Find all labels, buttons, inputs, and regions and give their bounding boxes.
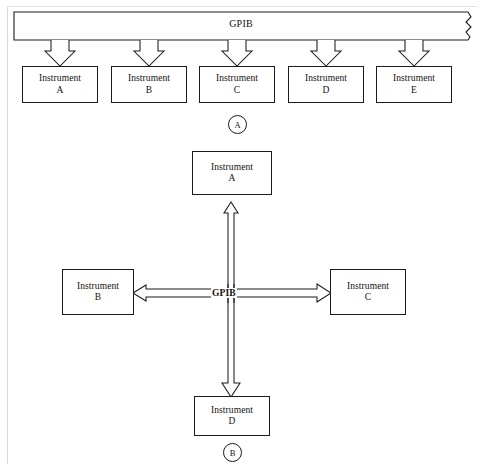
instrument-label-line2: C xyxy=(234,85,240,96)
figure-tag-b: B xyxy=(223,443,242,462)
figure-tag-a-label: A xyxy=(234,120,240,130)
instrument-label-line2: B xyxy=(95,292,101,303)
bus-drop-arrow-a xyxy=(45,40,75,66)
instrument-box-b-left: Instrument B xyxy=(62,269,134,315)
instrument-box-b-right: Instrument C xyxy=(330,269,406,315)
gpib-bus-label-a: GPIB xyxy=(0,18,482,29)
figure-tag-b-label: B xyxy=(230,448,236,458)
figure-page: GPIB Instrument A Instrument B Instrumen… xyxy=(0,0,491,473)
instrument-label-line1: Instrument xyxy=(216,73,258,84)
instrument-label-line2: B xyxy=(146,85,152,96)
instrument-label-line1: Instrument xyxy=(305,73,347,84)
gpib-bus-label-b: GPIB xyxy=(211,288,237,298)
instrument-label-line1: Instrument xyxy=(393,73,435,84)
gpib-arrow-vertical xyxy=(222,202,240,397)
instrument-label-line1: Instrument xyxy=(77,281,119,292)
instrument-label-line2: A xyxy=(229,173,236,184)
instrument-label-line2: A xyxy=(57,85,64,96)
instrument-label-line2: C xyxy=(365,292,371,303)
instrument-box-b-bottom: Instrument D xyxy=(194,396,270,436)
instrument-label-line2: D xyxy=(323,85,330,96)
instrument-label-line1: Instrument xyxy=(128,73,170,84)
instrument-label-line2: E xyxy=(411,85,417,96)
instrument-label-line1: Instrument xyxy=(211,405,253,416)
instrument-box-b-top: Instrument A xyxy=(192,151,272,195)
instrument-box-a5: Instrument E xyxy=(376,66,452,103)
bus-drop-arrow-e xyxy=(399,40,429,66)
figure-tag-a: A xyxy=(228,115,247,134)
instrument-box-a4: Instrument D xyxy=(288,66,364,103)
instrument-box-a1: Instrument A xyxy=(22,66,98,103)
instrument-label-line2: D xyxy=(229,416,236,427)
instrument-label-line1: Instrument xyxy=(39,73,81,84)
instrument-label-line1: Instrument xyxy=(211,162,253,173)
instrument-box-a2: Instrument B xyxy=(111,66,187,103)
bus-drop-arrow-b xyxy=(134,40,164,66)
instrument-label-line1: Instrument xyxy=(347,281,389,292)
instrument-box-a3: Instrument C xyxy=(199,66,275,103)
bus-drop-arrow-c xyxy=(222,40,252,66)
bus-drop-arrow-d xyxy=(311,40,341,66)
